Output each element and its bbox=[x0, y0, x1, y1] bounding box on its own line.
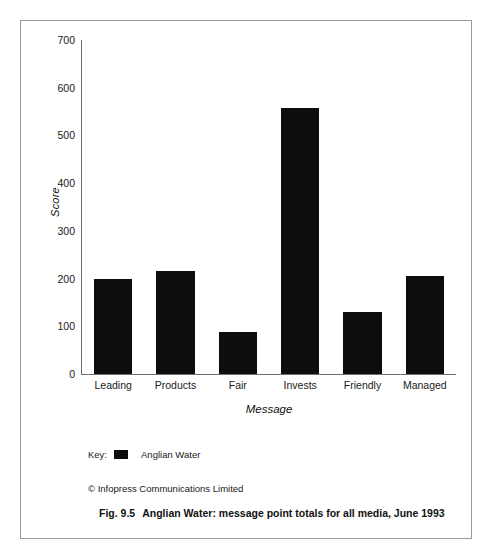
x-axis-tick-label: Invests bbox=[269, 379, 331, 391]
y-axis-tick-label: 300 bbox=[35, 226, 75, 237]
figure-caption: Fig. 9.5Anglian Water: message point tot… bbox=[99, 507, 445, 519]
bar-slot bbox=[343, 40, 382, 374]
y-axis-tick-label: 400 bbox=[35, 178, 75, 189]
y-axis-tick-label: 200 bbox=[35, 273, 75, 284]
y-axis-tick-label: 700 bbox=[35, 35, 75, 46]
copyright-notice: © Infopress Communications Limited bbox=[88, 483, 243, 494]
bar[interactable] bbox=[219, 332, 258, 374]
x-axis-title: Message bbox=[82, 403, 456, 415]
x-axis-tick-label: Managed bbox=[394, 379, 456, 391]
figure-caption-text: Anglian Water: message point totals for … bbox=[142, 507, 444, 519]
y-axis-tick-label: 100 bbox=[35, 321, 75, 332]
plot-region bbox=[82, 40, 456, 374]
x-axis-tick-label: Leading bbox=[82, 379, 144, 391]
chart-legend: Key: Anglian Water bbox=[88, 449, 200, 460]
x-axis-tick-label: Friendly bbox=[331, 379, 393, 391]
legend-series-label: Anglian Water bbox=[141, 449, 200, 460]
bar[interactable] bbox=[94, 279, 133, 374]
bar[interactable] bbox=[281, 108, 320, 374]
y-axis-tick-labels: 0100200300400500600700 bbox=[33, 21, 75, 401]
figure-caption-number: Fig. 9.5 bbox=[99, 507, 135, 519]
bar-chart: Score 0100200300400500600700 LeadingProd… bbox=[21, 21, 473, 401]
legend-key-label: Key: bbox=[88, 449, 107, 460]
x-axis-tick-label: Fair bbox=[207, 379, 269, 391]
legend-swatch-icon bbox=[114, 450, 128, 459]
x-axis-tick-labels: LeadingProductsFairInvestsFriendlyManage… bbox=[82, 379, 456, 397]
bar-slot bbox=[94, 40, 133, 374]
x-axis-line bbox=[81, 374, 456, 375]
bar[interactable] bbox=[156, 271, 195, 374]
y-axis-tick-label: 0 bbox=[35, 369, 75, 380]
x-axis-tick-label: Products bbox=[144, 379, 206, 391]
bar-slot bbox=[156, 40, 195, 374]
bar[interactable] bbox=[343, 312, 382, 374]
figure-frame: Score 0100200300400500600700 LeadingProd… bbox=[20, 20, 472, 539]
y-axis-tick-label: 600 bbox=[35, 82, 75, 93]
bar[interactable] bbox=[406, 276, 445, 374]
bar-slot bbox=[281, 40, 320, 374]
bar-slot bbox=[406, 40, 445, 374]
y-axis-tick-label: 500 bbox=[35, 130, 75, 141]
bar-slot bbox=[219, 40, 258, 374]
